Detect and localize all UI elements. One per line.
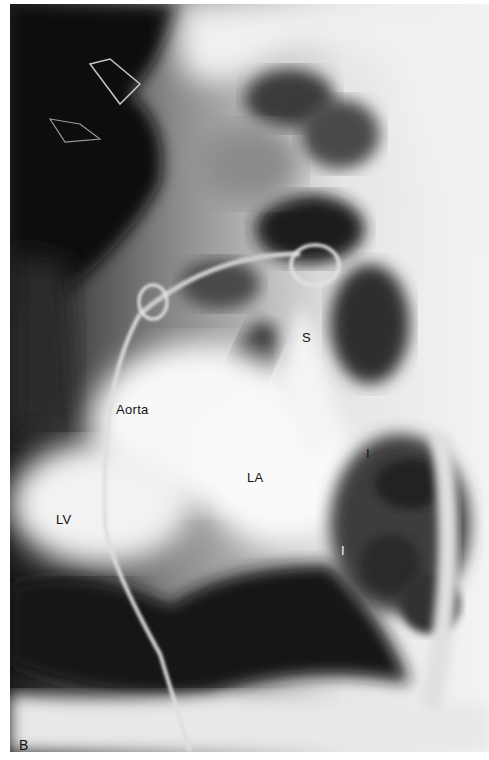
label-left-ventricle: LV xyxy=(56,513,72,526)
xray-rendering xyxy=(10,4,489,752)
label-s: S xyxy=(302,331,311,344)
panel-label: B xyxy=(19,738,29,752)
label-left-atrium: LA xyxy=(247,471,264,484)
label-aorta: Aorta xyxy=(116,403,149,416)
label-i-upper: I xyxy=(366,447,370,460)
angiogram-image xyxy=(10,4,489,752)
label-i-lower: I xyxy=(341,544,345,557)
